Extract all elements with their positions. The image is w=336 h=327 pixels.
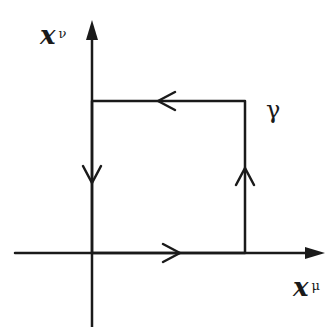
vertical-axis-label: xν xyxy=(40,20,66,50)
diagram-canvas: xν xμ γ xyxy=(0,0,336,327)
curve-label: γ xyxy=(266,96,280,124)
vertical-axis-symbol: x xyxy=(40,20,56,50)
horizontal-axis-symbol: x xyxy=(293,272,309,302)
horizontal-axis-label: xμ xyxy=(293,272,320,302)
vertical-axis-arrowhead-icon xyxy=(86,20,98,40)
horizontal-axis-arrowhead-icon xyxy=(305,247,325,259)
vertical-axis-superscript: ν xyxy=(59,26,67,41)
loop-gamma xyxy=(92,101,245,253)
horizontal-axis-superscript: μ xyxy=(312,278,320,293)
